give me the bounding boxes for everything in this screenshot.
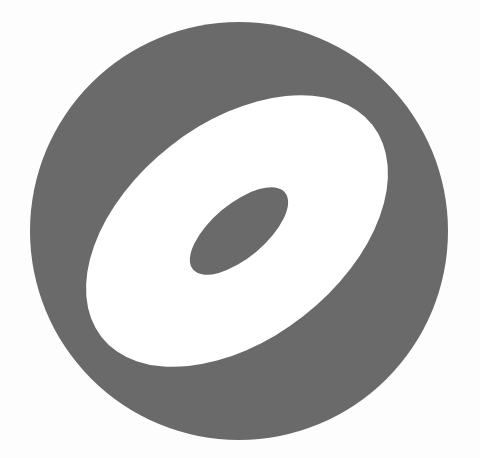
logo-container	[0, 0, 480, 458]
disc-ring-logo-icon	[0, 0, 480, 458]
